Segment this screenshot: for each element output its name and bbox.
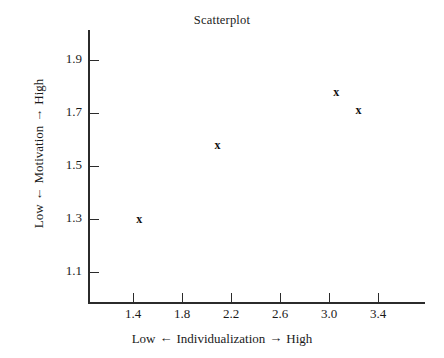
x-tick-label: 3.4 [358, 306, 398, 322]
x-axis-line [88, 302, 425, 304]
y-axis-title: Low←Motivation→High [30, 54, 47, 254]
x-tick-mark [280, 293, 281, 302]
arrow-right-icon: → [265, 330, 286, 346]
x-tick-mark [378, 293, 379, 302]
arrow-up-icon: → [30, 105, 46, 126]
x-tick-label: 2.6 [260, 306, 300, 322]
x-tick-mark [133, 293, 134, 302]
chart-title: Scatterplot [0, 13, 444, 28]
x-axis-title: Low←Individualization→High [0, 330, 444, 347]
scatterplot-figure: Scatterplot 1.11.31.51.71.9 1.41.82.22.6… [0, 0, 444, 358]
arrow-down-icon: ← [30, 183, 46, 204]
data-point-marker: x [211, 138, 225, 152]
y-axis-high-label: High [31, 79, 46, 105]
data-point-marker: x [329, 85, 343, 99]
y-axis-low-label: Low [31, 204, 46, 228]
y-tick-mark [90, 166, 99, 167]
x-axis-high-label: High [286, 331, 312, 346]
x-tick-mark [329, 293, 330, 302]
x-axis-low-label: Low [132, 331, 156, 346]
x-tick-mark [182, 293, 183, 302]
x-tick-mark [231, 293, 232, 302]
y-tick-label: 1.5 [48, 157, 82, 173]
y-tick-mark [90, 219, 99, 220]
x-axis-variable-label: Individualization [177, 331, 266, 346]
x-tick-label: 1.8 [162, 306, 202, 322]
y-axis-variable-label: Motivation [31, 126, 46, 184]
data-point-marker: x [132, 212, 146, 226]
x-tick-label: 3.0 [309, 306, 349, 322]
y-tick-label: 1.7 [48, 104, 82, 120]
y-axis-line [88, 30, 90, 304]
y-tick-label: 1.9 [48, 51, 82, 67]
y-tick-mark [90, 113, 99, 114]
y-tick-label: 1.1 [48, 263, 82, 279]
x-tick-label: 1.4 [113, 306, 153, 322]
arrow-left-icon: ← [156, 330, 177, 346]
y-tick-mark [90, 60, 99, 61]
data-point-marker: x [351, 103, 365, 117]
x-tick-label: 2.2 [211, 306, 251, 322]
y-tick-mark [90, 272, 99, 273]
y-tick-label: 1.3 [48, 210, 82, 226]
